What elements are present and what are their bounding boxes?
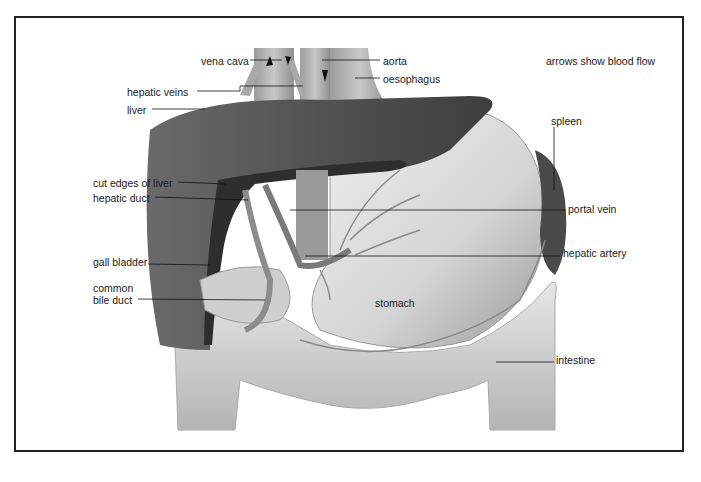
- leader-lines: [0, 0, 701, 482]
